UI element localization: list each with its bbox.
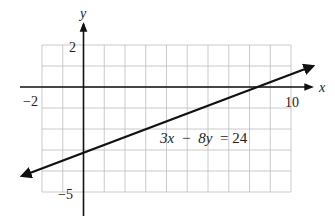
- y-tick-2: 2: [69, 40, 76, 55]
- graph-canvas: y x 2 −2 10 −5 3x − 8y = 24: [0, 0, 335, 221]
- eq-term-3x: 3x: [159, 130, 175, 146]
- eq-term-8y: 8y: [198, 130, 213, 146]
- eq-rest: = 24: [220, 130, 248, 146]
- equation-line: [22, 66, 313, 176]
- y-tick-neg5: −5: [58, 187, 73, 202]
- y-axis-label: y: [78, 6, 87, 21]
- equation-label: 3x − 8y = 24: [159, 130, 248, 146]
- eq-minus: −: [182, 130, 190, 146]
- x-tick-10: 10: [285, 95, 299, 110]
- grid: [42, 45, 291, 192]
- x-axis-label: x: [318, 80, 326, 95]
- x-tick-neg2: −2: [23, 94, 38, 109]
